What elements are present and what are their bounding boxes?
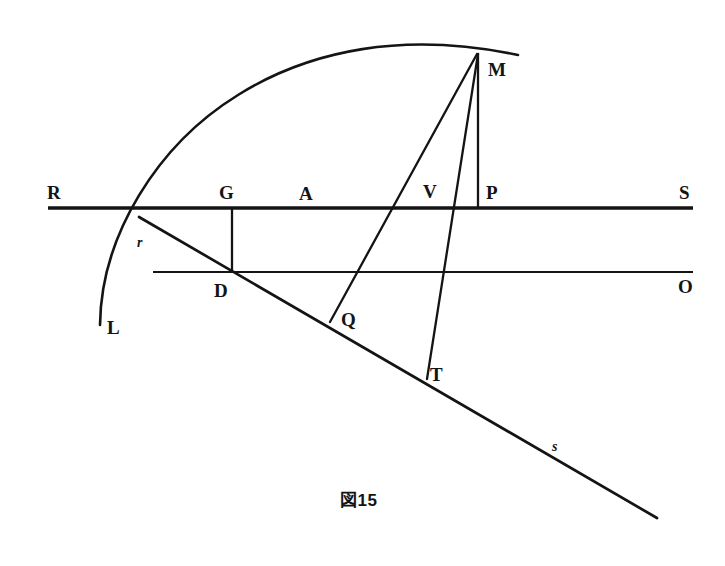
segment-mt xyxy=(427,54,478,379)
point-label-S: S xyxy=(679,183,690,202)
point-label-Q: Q xyxy=(341,310,356,329)
point-label-A: A xyxy=(299,184,313,203)
diagram-canvas xyxy=(0,0,725,566)
oblique-line-s xyxy=(139,217,657,518)
point-label-M: M xyxy=(488,60,506,79)
point-label-P: P xyxy=(486,183,498,202)
point-label-L: L xyxy=(107,318,120,337)
line-label-s: s xyxy=(552,440,557,454)
point-label-T: T xyxy=(430,365,443,384)
line-label-r: r xyxy=(137,236,142,250)
point-label-D: D xyxy=(214,281,228,300)
point-label-G: G xyxy=(219,183,234,202)
segment-mq xyxy=(330,54,477,322)
point-label-R: R xyxy=(47,183,61,202)
figure-caption: 図15 xyxy=(340,492,377,509)
point-label-O: O xyxy=(678,277,693,296)
point-label-V: V xyxy=(423,182,437,201)
figure-container: R G A V P S M D O Q T L r s 図15 xyxy=(0,0,725,566)
